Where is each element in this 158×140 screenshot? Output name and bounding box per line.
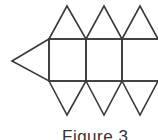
bottom-triangle-1 [49,81,86,115]
figure-caption: Figure 3 [62,127,128,140]
square-1 [49,39,86,81]
left-triangle [12,39,49,81]
bottom-triangle-3 [122,81,158,115]
square-2 [86,39,122,81]
top-triangle-3 [122,6,158,39]
bottom-triangle-2 [86,81,122,115]
square-3 [122,39,158,81]
net-diagram [0,0,158,140]
top-triangle-1 [49,6,86,39]
top-triangle-2 [86,6,122,39]
